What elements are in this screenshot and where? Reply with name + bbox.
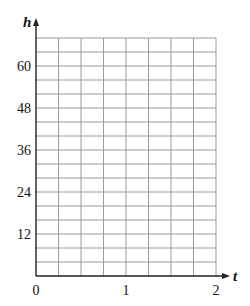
x-tick-label: 2 — [213, 283, 220, 298]
x-tick-label: 1 — [123, 283, 130, 298]
y-tick-label: 12 — [17, 227, 31, 242]
x-tick-label: 0 — [33, 283, 40, 298]
x-axis-label: t — [233, 268, 238, 284]
y-axis-arrow-icon — [33, 18, 39, 26]
y-tick-label: 24 — [17, 185, 31, 200]
y-axis-label: h — [23, 14, 31, 30]
x-axis-arrow-icon — [222, 273, 230, 279]
y-tick-label: 36 — [17, 143, 31, 158]
grid-chart: ht1224364860012 — [0, 0, 250, 306]
y-tick-label: 48 — [17, 101, 31, 116]
y-tick-label: 60 — [17, 59, 31, 74]
